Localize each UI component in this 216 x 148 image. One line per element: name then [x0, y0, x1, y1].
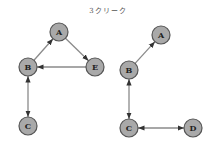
node-right-A: A — [152, 26, 170, 44]
edge-left-B-A — [34, 39, 53, 61]
svg-text:B: B — [25, 62, 32, 72]
nodes-layer: ABECABCD — [19, 23, 202, 137]
node-left-E: E — [86, 58, 104, 76]
svg-text:C: C — [126, 123, 132, 133]
edge-left-A-E — [65, 38, 88, 60]
svg-text:A: A — [157, 30, 165, 40]
node-left-A: A — [50, 23, 68, 41]
svg-text:D: D — [190, 123, 197, 133]
edges-layer — [28, 38, 184, 128]
svg-text:C: C — [25, 121, 31, 131]
node-right-B: B — [120, 61, 138, 79]
edge-right-B-A — [135, 42, 155, 64]
node-left-B: B — [19, 58, 37, 76]
node-right-C: C — [120, 119, 138, 137]
svg-text:E: E — [92, 62, 98, 72]
node-left-C: C — [19, 117, 37, 135]
node-right-D: D — [184, 119, 202, 137]
svg-text:A: A — [55, 27, 63, 37]
graph-canvas: ABECABCD — [0, 0, 216, 148]
svg-text:B: B — [126, 65, 133, 75]
